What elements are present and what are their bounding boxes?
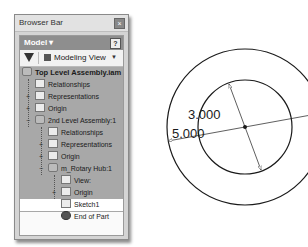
inner-diameter-label[interactable]: 3.000 <box>188 107 221 122</box>
center-point[interactable] <box>243 125 247 129</box>
sketch-canvas[interactable]: 3.000 5.000 <box>0 0 308 247</box>
outer-diameter-label[interactable]: 5.000 <box>172 126 205 141</box>
